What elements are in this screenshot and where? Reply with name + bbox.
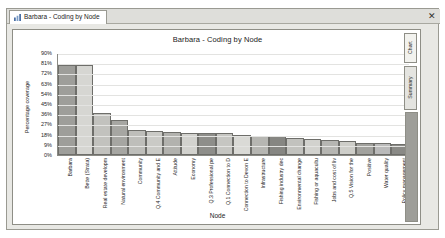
y-axis-tick: 9% xyxy=(44,143,52,149)
y-axis-tick: 63% xyxy=(41,82,52,88)
x-axis-tick-label: Jobs and cost of liv xyxy=(332,158,337,202)
x-label-slot: Natural environment xyxy=(110,158,128,220)
x-axis-tick-label: Attitude xyxy=(173,158,178,176)
x-label-slot: Positive xyxy=(356,158,374,220)
screenshot-root: Barbara - Coding by Node ✕ Barbara - Cod… xyxy=(0,0,445,238)
bar[interactable] xyxy=(356,143,374,155)
x-axis-tick-label: Natural environment xyxy=(121,158,126,205)
bar[interactable] xyxy=(321,140,339,155)
x-axis-tick-label: Q.4 Community and E xyxy=(156,158,161,209)
tab-label: Barbara - Coding by Node xyxy=(24,14,100,21)
y-axis-tick: 54% xyxy=(41,92,52,98)
y-axis-tick: 0% xyxy=(44,153,52,159)
y-axis-title: Percentage coverage xyxy=(24,67,30,147)
x-axis-tick-label: Economy xyxy=(191,158,196,180)
y-axis-tick: 81% xyxy=(41,61,52,67)
x-axis-tick-label: Q.5 Vision for the xyxy=(349,158,354,198)
side-tab-summary-label: Summary xyxy=(408,77,413,99)
x-label-slot: Real estate developm xyxy=(92,158,110,220)
x-axis-tick-label: Bette (Strata) xyxy=(85,158,90,189)
x-label-slot: Environmental change xyxy=(286,158,304,220)
bar[interactable] xyxy=(58,65,76,155)
x-axis-tick-label: Connection to Devon E xyxy=(244,158,249,211)
bar[interactable] xyxy=(93,113,111,155)
bar[interactable] xyxy=(374,143,392,155)
gridline xyxy=(58,64,409,65)
gridline xyxy=(58,115,409,116)
y-axis-tick: 36% xyxy=(41,112,52,118)
x-label-slot: Water quality xyxy=(374,158,392,220)
bar[interactable] xyxy=(198,133,216,155)
x-label-slot: Infrastructure xyxy=(251,158,269,220)
side-tab-chart-label: Chart xyxy=(408,42,413,55)
x-label-slot: Connection to Devon E xyxy=(233,158,251,220)
bar[interactable] xyxy=(339,141,357,155)
y-axis-tick: 45% xyxy=(41,102,52,108)
bar[interactable] xyxy=(181,133,199,155)
y-axis: Percentage coverage 90%81%72%63%54%45%36… xyxy=(13,54,55,156)
bar-chart-icon xyxy=(14,14,21,21)
side-tab-chart[interactable]: Chart xyxy=(404,33,417,63)
x-axis-tick-label: Fishing industry dec xyxy=(279,158,284,204)
chart-window: Barbara - Coding by Node ✕ Barbara - Cod… xyxy=(6,8,439,230)
x-axis-title: Node xyxy=(13,212,421,219)
x-label-slot: Q.1 Connection to D xyxy=(215,158,233,220)
x-axis-tick-label: Positive xyxy=(367,158,372,176)
plot-area xyxy=(57,54,409,156)
x-label-slot: Q.5 Vision for the xyxy=(339,158,357,220)
side-panel-filler xyxy=(405,112,418,222)
x-axis-tick-label: Q.1 Connection to D xyxy=(226,158,231,205)
gridline xyxy=(58,85,409,86)
x-axis-tick-label: Real estate developm xyxy=(103,158,108,208)
y-axis-tick: 27% xyxy=(41,123,52,129)
gridline xyxy=(58,74,409,75)
y-axis-tick: 18% xyxy=(41,133,52,139)
x-axis-tick-label: Infrastructure xyxy=(261,158,266,189)
close-icon[interactable]: ✕ xyxy=(426,11,437,22)
x-axis-tick-label: Community xyxy=(138,158,143,184)
y-axis-tick: 90% xyxy=(41,51,52,57)
x-label-slot: Barbara xyxy=(57,158,75,220)
bar[interactable] xyxy=(128,130,146,155)
gridline xyxy=(58,125,409,126)
y-axis-tick: 72% xyxy=(41,72,52,78)
bar[interactable] xyxy=(233,135,251,155)
bar[interactable] xyxy=(304,139,322,155)
x-label-slot: Economy xyxy=(180,158,198,220)
gridline xyxy=(58,146,409,147)
tab-barbara-coding-by-node[interactable]: Barbara - Coding by Node xyxy=(9,10,107,24)
x-label-slot: Community xyxy=(127,158,145,220)
chart-title: Barbara - Coding by Node xyxy=(13,35,421,44)
gridline xyxy=(58,136,409,137)
side-tab-summary[interactable]: Summary xyxy=(404,66,417,110)
gridline xyxy=(58,95,409,96)
x-axis-tick-label: Fishing or aquacultu xyxy=(314,158,319,205)
x-axis-labels: BarbaraBette (Strata)Real estate develop… xyxy=(57,158,409,220)
gridline xyxy=(58,105,409,106)
chart-panel: Barbara - Coding by Node Percentage cove… xyxy=(12,29,421,225)
x-label-slot: Q.4 Community and E xyxy=(145,158,163,220)
x-axis-tick-label: Barbara xyxy=(68,158,73,176)
x-label-slot: Attitude xyxy=(163,158,181,220)
x-axis-tick-label: Q.3 Professional pe xyxy=(209,158,214,204)
gridline xyxy=(58,54,409,55)
x-axis-tick-label: Water quality xyxy=(384,158,389,188)
x-label-slot: Jobs and cost of liv xyxy=(321,158,339,220)
bar[interactable] xyxy=(76,65,94,155)
x-label-slot: Fishing or aquacultu xyxy=(303,158,321,220)
x-label-slot: Q.3 Professional pe xyxy=(198,158,216,220)
x-axis-tick-label: Environmental change xyxy=(297,158,302,210)
bar[interactable] xyxy=(216,133,234,155)
window-tab-strip: Barbara - Coding by Node ✕ xyxy=(7,9,440,24)
x-label-slot: Bette (Strata) xyxy=(75,158,93,220)
x-label-slot: Fishing industry dec xyxy=(268,158,286,220)
